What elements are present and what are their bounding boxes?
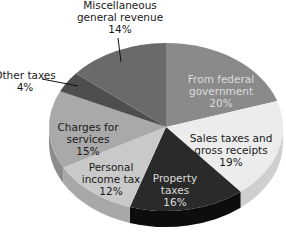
label-other-taxes: Other taxes 4% xyxy=(0,69,56,93)
pie-chart xyxy=(0,0,286,237)
label-federal-government: From federal government 20% xyxy=(188,73,254,109)
label-sales-taxes: Sales taxes and gross receipts 19% xyxy=(190,132,273,168)
label-property-taxes: Property taxes 16% xyxy=(153,172,197,208)
label-personal-income-tax: Personal income tax 12% xyxy=(82,161,141,197)
label-misc-general-revenue: Miscellaneous general revenue 14% xyxy=(77,0,163,35)
label-charges-for-services: Charges for services 15% xyxy=(58,121,119,157)
